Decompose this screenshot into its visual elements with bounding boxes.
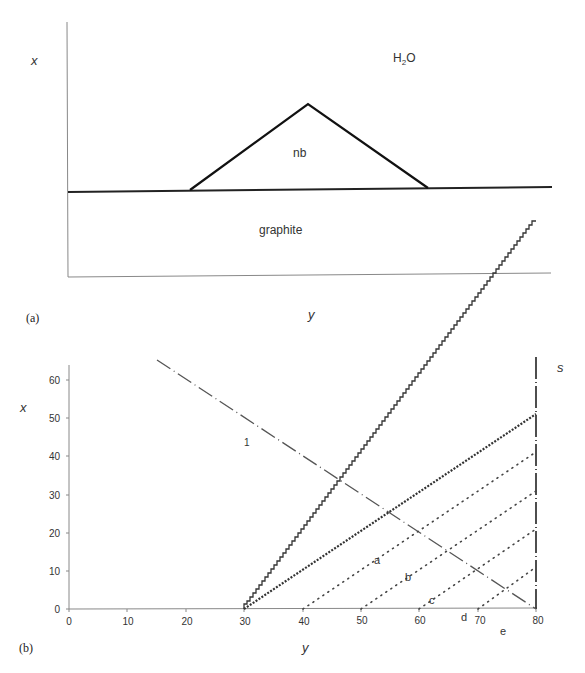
panel-a-label: (a) xyxy=(26,311,39,325)
line-1-label: 1 xyxy=(244,437,250,448)
panel-a-x-axis xyxy=(68,273,551,277)
panel-b-y-tick-labels: 0 10 20 30 40 50 60 xyxy=(49,375,61,615)
water-label: H2O xyxy=(393,51,415,67)
panel-b: 0 10 20 30 40 50 60 0 10 20 30 40 50 xyxy=(19,221,564,655)
svg-text:0: 0 xyxy=(66,616,72,627)
line-e-dotted xyxy=(478,567,536,609)
svg-text:80: 80 xyxy=(532,615,544,626)
svg-text:10: 10 xyxy=(49,566,61,577)
figure: x H2O nb graphite (a) y 0 10 20 30 40 xyxy=(0,0,585,673)
svg-text:30: 30 xyxy=(239,616,251,627)
graphite-interface-line xyxy=(68,187,552,192)
panel-b-ylabel: x xyxy=(19,400,27,415)
panel-b-x-tick-labels: 0 10 20 30 40 50 60 70 80 xyxy=(66,615,544,627)
svg-text:70: 70 xyxy=(474,615,486,626)
boundary-s-label: s xyxy=(557,360,564,375)
svg-text:20: 20 xyxy=(49,528,61,539)
panel-b-label: (b) xyxy=(19,641,33,655)
line-c-label: c xyxy=(429,594,435,606)
line-b-label: b xyxy=(405,571,411,583)
line-d-label: d xyxy=(461,611,467,623)
graphite-label: graphite xyxy=(259,223,303,237)
svg-text:20: 20 xyxy=(181,616,193,627)
svg-text:10: 10 xyxy=(122,616,134,627)
panel-b-xlabel: y xyxy=(301,640,310,655)
svg-text:40: 40 xyxy=(298,616,310,627)
svg-text:50: 50 xyxy=(49,413,61,424)
line-1 xyxy=(157,360,536,609)
line-a-staircase xyxy=(244,221,536,609)
svg-text:0: 0 xyxy=(54,604,60,615)
nanobubble-triangle xyxy=(190,104,428,190)
line-c-dotted xyxy=(361,491,536,609)
panel-a-y-axis xyxy=(67,22,68,277)
panel-a-xlabel: y xyxy=(307,307,316,322)
panel-a: x H2O nb graphite (a) y xyxy=(26,22,552,325)
svg-text:30: 30 xyxy=(49,490,61,501)
svg-text:60: 60 xyxy=(49,375,61,386)
svg-text:60: 60 xyxy=(414,615,426,626)
line-a-label: a xyxy=(374,554,381,566)
line-e-label: e xyxy=(500,625,506,637)
panel-a-ylabel: x xyxy=(30,53,38,68)
svg-text:50: 50 xyxy=(356,615,368,626)
nanobubble-label: nb xyxy=(293,146,307,160)
svg-text:40: 40 xyxy=(49,451,61,462)
